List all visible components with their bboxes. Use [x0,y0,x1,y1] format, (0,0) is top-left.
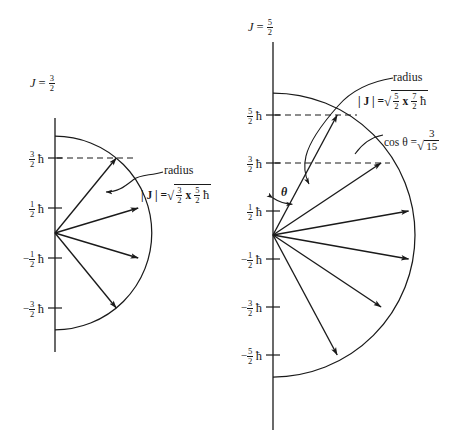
left-radius-leader-arrow [106,180,133,192]
left-tick-label-3-2: 32ħ [0,150,44,168]
left-vector-m-neg-3-2 [55,233,116,308]
right-vector-m-neg-3-2 [273,235,381,307]
right-tick-label-neg-5-2: −52ħ [218,347,262,365]
right-j-symbol: J [248,20,254,34]
right-tick-label-neg-3-2: −32ħ [218,299,262,317]
left-radius-annotation-label: radius [164,163,193,178]
right-j-equals: = [254,20,267,34]
right-tick-label-3-2: 32ħ [218,155,262,173]
right-tick-label-1-2: 12ħ [218,203,262,221]
left-magnitude-formula: | J | =√32x52ħ [141,184,211,204]
angular-momentum-figure: J=32 32ħ 12ħ −12ħ −32ħ radius | J | =√32… [0,0,473,448]
figure-linework [0,0,473,448]
right-vector-m-1-2 [273,211,409,235]
right-vector-m-neg-5-2 [273,235,337,355]
theta-angle-label: θ [281,185,287,200]
left-vector-m-3-2 [55,158,116,233]
left-j-value-fraction: 32 [49,74,55,92]
cos-theta-fraction: 315 [424,128,439,152]
left-tick-label-1-2: 12ħ [0,200,44,218]
left-magnitude-lhs: | J | = [141,189,167,201]
left-vectors [55,158,138,308]
left-panel-graphics [48,118,163,352]
right-j-value-fraction: 52 [267,18,273,36]
right-magnitude-lhs: | J | = [358,95,384,107]
left-times-symbol: x [182,189,194,201]
cos-theta-leader-line [355,135,383,154]
left-magnitude-arc [55,136,152,330]
right-vector-m-5-2 [273,115,337,235]
left-tick-label-neg-3-2: −32ħ [0,300,44,318]
left-vector-m-1-2 [55,208,138,233]
right-panel-j-title: J=52 [248,18,273,36]
left-j-equals: = [36,76,49,90]
right-radius-leader-mid [306,106,338,156]
left-vector-m-neg-1-2 [55,233,138,258]
right-tick-label-neg-1-2: −12ħ [218,251,262,269]
left-j-symbol: J [30,76,36,90]
right-magnitude-formula: | J | =√52x72ħ [358,90,428,110]
right-radius-annotation-label: radius [393,70,422,85]
right-vector-m-neg-1-2 [273,235,409,259]
cos-theta-lhs: cos θ = [384,136,417,148]
left-tick-label-neg-1-2: −12ħ [0,250,44,268]
left-radius-leader-line [133,172,163,180]
right-tick-label-5-2: 52ħ [218,107,262,125]
right-vector-m-3-2 [273,163,381,235]
cos-theta-formula: cos θ =√315 [384,128,439,154]
left-panel-j-title: J=32 [30,74,55,92]
right-times-symbol: x [399,95,411,107]
